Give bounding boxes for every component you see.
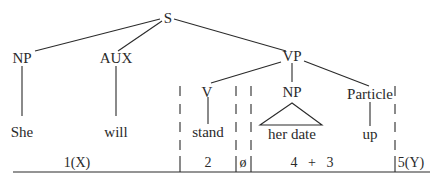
word-up: up [363, 126, 378, 142]
word-stand: stand [192, 124, 224, 140]
np-triangle [260, 103, 322, 125]
node-particle: Particle [347, 86, 393, 102]
node-vp: VP [282, 48, 301, 64]
edge-vp-particle [304, 61, 369, 86]
node-v: V [202, 84, 213, 100]
syntax-tree-diagram: S NP AUX VP V NP Particle She will stand… [0, 0, 436, 188]
segment-empty: ø [240, 155, 247, 171]
segment-1x: 1(X) [64, 155, 90, 171]
segment-5y: 5(Y) [398, 155, 424, 171]
segment-2: 2 [205, 155, 212, 171]
edge-s-vp [174, 19, 286, 51]
node-np-object: NP [282, 84, 301, 100]
edge-vp-v [211, 62, 281, 83]
node-aux: AUX [100, 50, 133, 66]
word-she: She [11, 124, 34, 140]
edge-s-aux [118, 21, 162, 51]
node-s: S [164, 10, 172, 26]
word-her-date: her date [268, 126, 316, 142]
segment-4-plus-3: 4 + 3 [291, 155, 334, 171]
word-will: will [104, 124, 127, 140]
node-np-subject: NP [12, 50, 31, 66]
